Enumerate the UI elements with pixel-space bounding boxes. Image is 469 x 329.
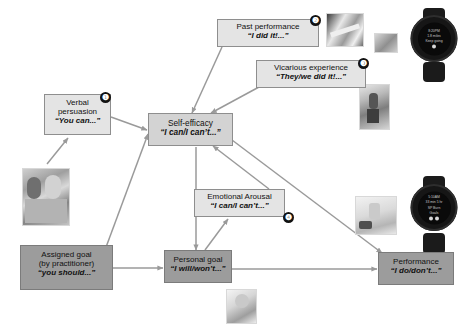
node-emotional-arousal[interactable]: Emotional Arousal “I can/I can’t...” [194, 189, 285, 217]
edge-vicarious-experience-to-self-efficacy [211, 87, 259, 113]
watch-case: 8:20PM 1.8 miles Keep going [411, 15, 458, 62]
watch-case: 5:10AM 33 min 5 hr SP Burn Goals [411, 184, 458, 231]
edge-photo-to-verbal-persuasion [47, 138, 68, 164]
watch-line-1: 8:20PM [428, 28, 440, 32]
node-quote: “you should...” [21, 269, 112, 278]
badge-1: ❶ [100, 92, 111, 103]
watch-buttons [432, 45, 436, 49]
past-performance-photo-large [326, 13, 364, 47]
watch-button-1 [429, 217, 433, 221]
edge-assigned-goal-to-self-efficacy [102, 134, 148, 258]
watch-line-2: 1.8 miles [427, 33, 441, 37]
node-quote: “I can/I can’t...” [149, 128, 232, 137]
watch-buttons [429, 217, 439, 221]
past-performance-photo-small [374, 33, 398, 53]
watch-band-bottom [423, 233, 445, 254]
watch-button-2 [435, 217, 439, 221]
vicarious-experience-photo [359, 84, 390, 130]
edge-personal-goal-to-emotional-arousal [205, 219, 228, 250]
node-quote: “I will/won’t...” [165, 265, 231, 274]
watch-face: 5:10AM 33 min 5 hr SP Burn Goals [418, 191, 451, 224]
watch-face: 8:20PM 1.8 miles Keep going [418, 22, 451, 55]
smartwatch-top: 8:20PM 1.8 miles Keep going [409, 8, 459, 82]
badge-4: ❹ [283, 212, 294, 223]
badge-3: ❸ [358, 58, 369, 69]
smartwatch-bottom: 5:10AM 33 min 5 hr SP Burn Goals [409, 176, 459, 254]
watch-line-3: Keep going [425, 39, 442, 43]
emotional-arousal-photo [355, 196, 397, 235]
watch-line-2: 33 min 5 hr [426, 200, 443, 204]
node-vicarious-experience[interactable]: Vicarious experience “They/we did it!...… [256, 60, 366, 88]
practitioner-client-photo [22, 168, 70, 226]
edge-emotional-arousal-to-self-efficacy [213, 146, 269, 189]
node-assigned-goal[interactable]: Assigned goal (by practitioner) “you sho… [20, 245, 113, 290]
watch-line-4: Goals [430, 210, 439, 214]
node-quote: “I do/don’t...” [379, 267, 453, 276]
node-quote: “You can...” [45, 117, 110, 126]
node-personal-goal[interactable]: Personal goal “I will/won’t...” [164, 250, 232, 283]
diagram-canvas: 8:20PM 1.8 miles Keep going 5:10AM 33 mi… [0, 0, 469, 329]
node-quote: “I can/I can’t...” [195, 202, 284, 211]
edge-verbal-persuasion-to-self-efficacy [111, 117, 147, 130]
node-quote: “They/we did it!...” [257, 73, 365, 82]
personal-goal-photo [226, 289, 257, 324]
watch-line-1: 5:10AM [428, 195, 440, 199]
watch-band-bottom [423, 62, 445, 82]
watch-line-3: SP Burn [428, 205, 441, 209]
edge-past-performance-to-self-efficacy [192, 47, 222, 113]
node-performance[interactable]: Performance “I do/don’t...” [378, 252, 454, 285]
watch-button-1 [432, 45, 436, 49]
node-quote: “I did it!...” [218, 32, 318, 41]
node-past-performance[interactable]: Past performance “I did it!...” [217, 19, 319, 47]
node-self-efficacy[interactable]: Self-efficacy “I can/I can’t...” [148, 113, 233, 146]
badge-2: ❷ [310, 15, 321, 26]
